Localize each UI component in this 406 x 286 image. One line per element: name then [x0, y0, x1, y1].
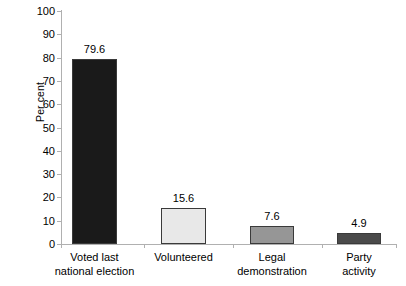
bar-value-label: 79.6: [84, 44, 105, 55]
bar-value-label: 4.9: [351, 218, 366, 229]
bar[interactable]: [337, 233, 381, 244]
y-axis-tick: [57, 11, 61, 12]
y-axis-tick: [57, 104, 61, 105]
bar-chart: Per cent 010203040506070809010079.615.67…: [0, 0, 406, 286]
y-axis-tick-label: 80: [43, 52, 55, 63]
bar-value-label: 15.6: [173, 193, 194, 204]
x-axis-tick: [322, 244, 323, 248]
bar[interactable]: [161, 208, 206, 244]
y-axis-tick: [57, 128, 61, 129]
x-axis-category-label: Legal demonstration: [237, 250, 307, 278]
y-axis-tick-label: 100: [37, 6, 55, 17]
y-axis-tick: [57, 174, 61, 175]
y-axis-tick: [57, 221, 61, 222]
bar[interactable]: [250, 226, 294, 244]
x-axis-line: [61, 244, 397, 245]
x-axis-tick: [61, 244, 62, 248]
y-axis-tick: [57, 58, 61, 59]
y-axis-tick: [57, 151, 61, 152]
y-axis-tick-label: 20: [43, 192, 55, 203]
x-axis-tick: [144, 244, 145, 248]
y-axis-tick: [57, 81, 61, 82]
x-axis-category-label: Volunteered: [154, 250, 213, 264]
y-axis-tick-label: 50: [43, 122, 55, 133]
bar-value-label: 7.6: [264, 211, 279, 222]
plot-area: 010203040506070809010079.615.67.64.9: [61, 11, 397, 244]
x-axis-tick: [396, 244, 397, 248]
y-axis-tick-label: 40: [43, 145, 55, 156]
y-axis-tick-label: 10: [43, 215, 55, 226]
x-axis-category-label: Voted last national election: [55, 250, 135, 278]
x-axis-category-label: Party activity: [336, 250, 383, 278]
y-axis-tick-label: 60: [43, 99, 55, 110]
y-axis-tick-label: 30: [43, 169, 55, 180]
y-axis-tick: [57, 34, 61, 35]
y-axis-tick-label: 0: [49, 239, 55, 250]
x-axis-tick: [233, 244, 234, 248]
y-axis-tick: [57, 197, 61, 198]
y-axis-tick-label: 90: [43, 29, 55, 40]
bar[interactable]: [72, 59, 117, 244]
y-axis-tick-label: 70: [43, 75, 55, 86]
